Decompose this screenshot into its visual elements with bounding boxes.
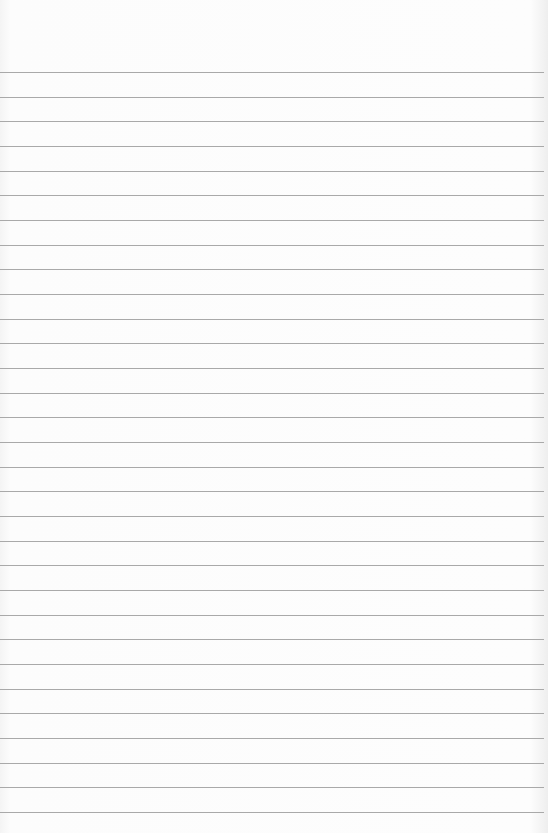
ruled-line [0, 689, 544, 690]
ruled-paper-sheet [0, 0, 548, 833]
ruled-line [0, 393, 544, 394]
ruled-line [0, 146, 544, 147]
ruled-line [0, 195, 544, 196]
ruled-line [0, 615, 544, 616]
ruled-line [0, 787, 544, 788]
ruled-line [0, 121, 544, 122]
ruled-line [0, 541, 544, 542]
ruled-line [0, 713, 544, 714]
ruled-line [0, 171, 544, 172]
ruled-line [0, 467, 544, 468]
ruled-line [0, 97, 544, 98]
ruled-line [0, 72, 544, 73]
ruled-line [0, 491, 544, 492]
ruled-line [0, 639, 544, 640]
ruled-line [0, 294, 544, 295]
ruled-line [0, 738, 544, 739]
ruled-line [0, 343, 544, 344]
ruled-line [0, 269, 544, 270]
ruled-line [0, 590, 544, 591]
ruled-line [0, 565, 544, 566]
ruled-line [0, 442, 544, 443]
ruled-line [0, 220, 544, 221]
ruled-line [0, 812, 544, 813]
ruled-line [0, 245, 544, 246]
ruled-line [0, 368, 544, 369]
ruled-line [0, 516, 544, 517]
ruled-line [0, 319, 544, 320]
ruled-line [0, 664, 544, 665]
ruled-line [0, 763, 544, 764]
ruled-line [0, 417, 544, 418]
